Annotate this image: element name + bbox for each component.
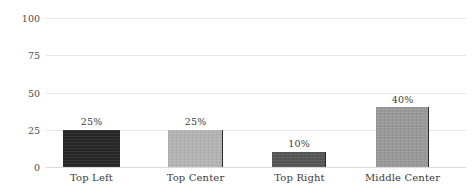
gridline-75 <box>46 55 466 56</box>
value-label-top-center: 25% <box>168 116 223 127</box>
category-label-top-center: Top Center <box>147 172 244 183</box>
y-axis-ticks: 100 75 50 25 0 <box>0 18 40 167</box>
y-tick-label-75: 75 <box>0 50 40 61</box>
bar-top-right[interactable] <box>272 152 326 167</box>
y-tick-label-25: 25 <box>0 124 40 135</box>
gridline-100 <box>46 18 466 19</box>
bar-chart: 100 75 50 25 0 25% 25% 10% 40% Top Left … <box>0 0 472 194</box>
plot-area <box>46 18 466 167</box>
value-label-top-left: 25% <box>63 116 120 127</box>
bar-top-left[interactable] <box>63 130 120 167</box>
y-tick-label-100: 100 <box>0 13 40 24</box>
bar-middle-center[interactable] <box>376 107 429 167</box>
bar-texture <box>376 107 428 167</box>
y-tick-label-0: 0 <box>0 162 40 173</box>
bar-texture <box>168 130 222 167</box>
bar-top-center[interactable] <box>168 130 223 167</box>
y-tick-label-50: 50 <box>0 87 40 98</box>
value-label-middle-center: 40% <box>376 94 429 105</box>
value-label-top-right: 10% <box>272 138 326 149</box>
bar-texture <box>272 152 325 167</box>
category-label-middle-center: Middle Center <box>354 172 451 183</box>
bar-texture <box>63 130 119 167</box>
category-label-top-left: Top Left <box>43 172 140 183</box>
category-label-top-right: Top Right <box>251 172 348 183</box>
gridline-0-baseline <box>46 167 466 168</box>
